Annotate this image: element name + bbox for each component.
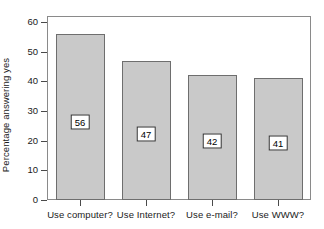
- bar-value-label: 47: [137, 127, 156, 142]
- y-tick-mark: [41, 141, 47, 142]
- x-tick-label: Use computer?: [47, 209, 113, 220]
- y-tick-label: 40: [14, 75, 38, 86]
- y-tick-label: 30: [14, 105, 38, 116]
- bar-value-label: 56: [71, 114, 90, 129]
- x-tick-mark: [212, 200, 213, 206]
- y-tick-mark: [41, 111, 47, 112]
- x-tick-mark: [80, 200, 81, 206]
- y-tick-label: 0: [14, 194, 38, 205]
- x-tick-label: Use WWW?: [252, 209, 305, 220]
- y-tick-mark: [41, 200, 47, 201]
- bar-value-label: 42: [203, 134, 222, 149]
- y-tick-mark: [41, 81, 47, 82]
- y-tick-mark: [41, 22, 47, 23]
- x-tick-label: Use Internet?: [117, 209, 175, 220]
- bar-chart: Percentage answering yes 0102030405060 U…: [0, 0, 324, 229]
- bar-value-label: 41: [269, 135, 288, 150]
- y-tick-mark: [41, 170, 47, 171]
- y-tick-label: 50: [14, 46, 38, 57]
- y-tick-label: 60: [14, 16, 38, 27]
- x-tick-mark: [146, 200, 147, 206]
- y-axis-title: Percentage answering yes: [0, 23, 14, 207]
- x-tick-label: Use e-mail?: [186, 209, 238, 220]
- y-tick-label: 10: [14, 164, 38, 175]
- y-tick-mark: [41, 52, 47, 53]
- y-tick-label: 20: [14, 135, 38, 146]
- x-tick-mark: [278, 200, 279, 206]
